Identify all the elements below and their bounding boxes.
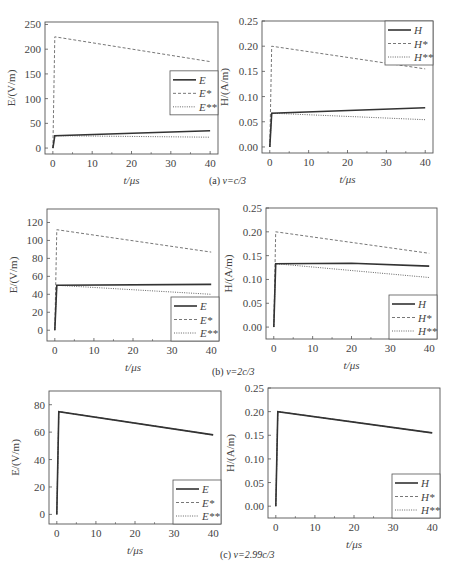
y-tick-label: 0.00: [245, 500, 265, 512]
chart-a-magnetic-field: 010203040t/μs0.000.050.100.150.200.25H/(…: [216, 15, 441, 193]
x-tick-label: 0: [273, 521, 279, 533]
y-tick-label: 100: [27, 234, 44, 246]
legend-label: E: [198, 74, 206, 86]
series-line-hstarstar: [270, 113, 425, 147]
x-tick-label: 10: [90, 527, 102, 539]
x-tick-label: 30: [388, 521, 400, 533]
legend-label: E*: [199, 314, 213, 326]
legend: EE*E**: [173, 480, 221, 524]
chart-c-electric-field: 010203040t/μs020406080E/(V/m)EE*E**: [3, 385, 229, 564]
series-line-estarstar: [53, 136, 210, 148]
x-tick-label: 20: [349, 521, 361, 533]
x-tick-label: 0: [267, 156, 273, 168]
chart-b-electric-field: 010203040t/μs020406080100120E/(V/m)EE*E*…: [1, 203, 227, 381]
x-axis-label: t/μs: [125, 361, 141, 373]
legend-label: H: [413, 24, 423, 36]
y-axis-label: H/(A/m): [224, 434, 237, 472]
y-axis: 0.000.050.100.150.200.25: [243, 202, 269, 333]
x-tick-label: 30: [167, 344, 179, 356]
x-tick-label: 0: [50, 157, 56, 169]
legend-label: H*: [417, 312, 432, 324]
y-tick-label: 0.25: [243, 202, 263, 214]
legend: HH*H**: [392, 474, 440, 518]
caption-c: (c) v=2.99c/3: [220, 549, 275, 560]
legend-label: H*: [420, 491, 435, 503]
legend-label: H: [417, 298, 427, 310]
x-axis-label: t/μs: [344, 359, 360, 371]
chart-b-magnetic-field: 010203040t/μs0.000.050.100.150.200.25H/(…: [220, 202, 445, 379]
x-tick-label: 0: [271, 342, 277, 354]
x-tick-label: 10: [307, 342, 319, 354]
y-tick-label: 60: [32, 270, 44, 282]
legend-label: H**: [413, 51, 433, 63]
y-tick-label: 150: [25, 68, 42, 80]
chart-c-magnetic-field: 010203040t/μs0.000.050.100.150.200.25H/(…: [222, 382, 448, 558]
y-tick-label: 0.10: [245, 453, 265, 465]
y-tick-label: 50: [30, 117, 42, 129]
x-tick-label: 0: [54, 527, 60, 539]
y-tick-label: 0.25: [245, 382, 265, 394]
y-axis: 050100150200250: [25, 18, 49, 154]
legend-label: E: [201, 483, 209, 495]
x-tick-label: 40: [208, 527, 220, 539]
caption-a-text: v=c/3: [223, 175, 246, 186]
y-tick-label: 60: [34, 426, 46, 438]
legend-label: E: [199, 300, 207, 312]
x-tick-label: 20: [342, 156, 354, 168]
y-tick-label: 0.20: [239, 40, 259, 52]
y-tick-label: 0.00: [243, 321, 263, 333]
x-tick-label: 30: [381, 156, 393, 168]
y-tick-label: 0: [40, 508, 46, 520]
caption-b: (b) v=2c/3: [212, 366, 255, 377]
x-tick-label: 30: [385, 342, 397, 354]
y-tick-label: 0.00: [239, 141, 259, 153]
legend-label: H: [420, 477, 430, 489]
y-tick-label: 0.10: [239, 91, 259, 103]
y-axis-label: H/(A/m): [218, 68, 231, 106]
legend-label: H*: [413, 38, 428, 50]
legend-label: E**: [201, 510, 220, 522]
y-tick-label: 0.05: [245, 477, 265, 489]
x-axis-label: t/μs: [127, 544, 143, 556]
y-tick-label: 0.15: [245, 429, 265, 441]
caption-a: (a) v=c/3: [209, 175, 246, 186]
y-axis: 020406080100120: [27, 216, 51, 336]
y-tick-label: 0.20: [243, 226, 263, 238]
x-tick-label: 40: [205, 157, 217, 169]
legend: EE*E**: [170, 71, 218, 115]
legend-label: E*: [201, 497, 215, 509]
x-tick-label: 20: [126, 157, 138, 169]
chart-a-electric-field: 010203040t/μs050100150200250E/(V/m)EE*E*…: [0, 16, 226, 194]
x-tick-label: 40: [427, 521, 439, 533]
legend-label: E*: [198, 87, 212, 99]
series-line-h: [270, 108, 425, 147]
legend-label: E**: [199, 327, 218, 339]
y-tick-label: 100: [25, 93, 42, 105]
y-tick-label: 80: [32, 252, 44, 264]
x-tick-label: 40: [424, 342, 436, 354]
y-tick-label: 0.25: [239, 15, 259, 27]
legend-label: H**: [417, 325, 437, 337]
y-tick-label: 0.10: [243, 273, 263, 285]
x-tick-label: 10: [303, 156, 315, 168]
legend: EE*E**: [171, 297, 219, 341]
y-axis: 0.000.050.100.150.200.25: [239, 15, 265, 153]
x-tick-label: 40: [206, 344, 218, 356]
y-tick-label: 200: [25, 43, 42, 55]
x-tick-label: 0: [52, 344, 58, 356]
y-tick-label: 0.05: [239, 116, 259, 128]
caption-c-text: v=2.99c/3: [234, 549, 275, 560]
y-axis-label: E/(V/m): [9, 439, 22, 476]
x-tick-label: 20: [130, 527, 142, 539]
y-tick-label: 250: [25, 18, 42, 30]
y-axis-label: E/(V/m): [5, 69, 18, 106]
y-tick-label: 80: [34, 399, 46, 411]
legend: HH*H**: [389, 295, 437, 339]
x-tick-label: 30: [169, 527, 181, 539]
y-tick-label: 0.15: [243, 250, 263, 262]
y-tick-label: 20: [32, 306, 44, 318]
x-axis-label: t/μs: [124, 174, 140, 186]
y-tick-label: 40: [32, 288, 44, 300]
legend: HH*H**: [385, 21, 433, 65]
x-axis-label: t/μs: [340, 173, 356, 185]
